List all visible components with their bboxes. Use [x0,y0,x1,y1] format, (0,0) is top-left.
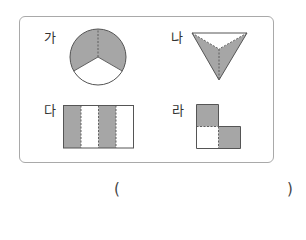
answer-blank[interactable] [125,180,285,200]
answer-close-paren: ) [287,180,293,198]
answer-open-paren: ( [114,180,120,198]
triangle-figure [192,33,247,80]
rectangle-figure [64,106,134,149]
l-shape-figure [197,105,241,149]
circle-figure [70,29,126,85]
